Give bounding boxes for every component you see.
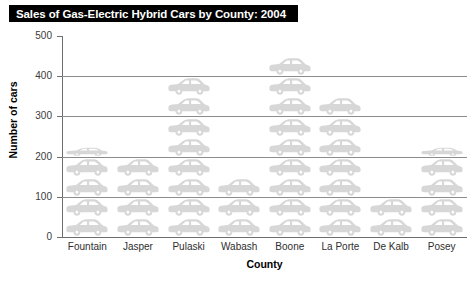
car-icon xyxy=(269,218,311,237)
car-icon-full xyxy=(265,217,316,237)
car-icon-full xyxy=(416,177,467,197)
car-icon-full xyxy=(163,76,214,96)
car-icon xyxy=(168,198,210,217)
pictogram-column xyxy=(113,36,164,237)
pictogram-column xyxy=(163,36,214,237)
pictogram-column xyxy=(265,36,316,237)
x-axis-line xyxy=(62,237,467,238)
car-icon xyxy=(66,198,108,217)
car-icon-partial xyxy=(416,147,467,157)
car-icon xyxy=(168,77,210,96)
car-icon xyxy=(421,218,463,237)
car-icon-full xyxy=(214,197,265,217)
car-icon-full xyxy=(265,96,316,116)
y-axis-tick-label: 100 xyxy=(12,191,52,202)
car-icon-full xyxy=(315,157,366,177)
car-icon-full xyxy=(62,177,113,197)
car-icon xyxy=(218,218,260,237)
car-icon-full xyxy=(265,197,316,217)
x-axis-tick-label-boone: Boone xyxy=(265,241,316,257)
car-icon xyxy=(218,198,260,217)
car-icon-full xyxy=(214,217,265,237)
car-icon xyxy=(168,118,210,137)
y-axis-tick-label: 0 xyxy=(12,231,52,242)
car-icon xyxy=(269,97,311,116)
pictogram-column xyxy=(366,36,417,237)
car-icon-full xyxy=(113,217,164,237)
car-icon-full xyxy=(62,217,113,237)
car-icon-full xyxy=(113,157,164,177)
car-icon xyxy=(319,198,361,217)
car-icon-full xyxy=(163,157,214,177)
car-icon xyxy=(370,198,412,217)
x-axis-tick-label-jasper: Jasper xyxy=(113,241,164,257)
car-icon-full xyxy=(163,137,214,157)
x-axis-title: County xyxy=(62,258,467,270)
car-icon-full xyxy=(315,137,366,157)
car-icon-full xyxy=(62,157,113,177)
car-icon xyxy=(269,77,311,96)
car-icon-partial xyxy=(62,147,113,157)
x-axis-tick-label-pulaski: Pulaski xyxy=(163,241,214,257)
car-icon-full xyxy=(315,217,366,237)
y-axis-tick-label: 500 xyxy=(12,30,52,41)
car-icon xyxy=(319,178,361,197)
x-axis-tick-label-fountain: Fountain xyxy=(62,241,113,257)
car-icon xyxy=(117,198,159,217)
x-axis-tick-label-la-porte: La Porte xyxy=(315,241,366,257)
car-icon-full xyxy=(163,217,214,237)
car-icon-full xyxy=(315,116,366,136)
car-icon xyxy=(66,158,108,177)
car-icon-full xyxy=(214,177,265,197)
car-icon xyxy=(269,118,311,137)
car-icon xyxy=(319,138,361,157)
car-icon-full xyxy=(62,197,113,217)
car-icon xyxy=(168,138,210,157)
car-icon xyxy=(168,178,210,197)
pictogram-column xyxy=(315,36,366,237)
car-icon xyxy=(319,218,361,237)
car-icon xyxy=(117,178,159,197)
pictogram-column xyxy=(62,36,113,237)
car-icon-full xyxy=(366,217,417,237)
page-title: Sales of Gas-Electric Hybrid Cars by Cou… xyxy=(16,8,286,20)
car-icon xyxy=(421,158,463,177)
car-icon xyxy=(319,118,361,137)
y-axis-tick-label: 300 xyxy=(12,110,52,121)
x-axis-tick-labels: FountainJasperPulaskiWabashBooneLa Porte… xyxy=(62,241,467,257)
car-icon-full xyxy=(163,116,214,136)
car-icon xyxy=(269,158,311,177)
car-icon xyxy=(168,218,210,237)
car-icon xyxy=(269,198,311,217)
car-icon xyxy=(269,178,311,197)
car-icon xyxy=(66,178,108,197)
car-icon xyxy=(168,158,210,177)
y-axis-tick-label: 400 xyxy=(12,70,52,81)
car-icon-full xyxy=(163,177,214,197)
pictogram-columns xyxy=(62,36,467,237)
pictogram-column xyxy=(214,36,265,237)
pictogram-column xyxy=(416,36,467,237)
car-icon xyxy=(370,218,412,237)
car-icon-full xyxy=(113,177,164,197)
y-axis-tick xyxy=(57,237,62,238)
car-icon-full xyxy=(163,197,214,217)
car-icon-full xyxy=(315,197,366,217)
y-axis-tick-label: 200 xyxy=(12,151,52,162)
pictograph-chart: Number of cars 0100200300400500 Fountain… xyxy=(0,22,472,290)
car-icon xyxy=(269,57,311,76)
car-icon xyxy=(168,97,210,116)
car-icon xyxy=(319,158,361,177)
car-icon-full xyxy=(265,56,316,76)
car-icon-full xyxy=(315,177,366,197)
car-icon xyxy=(269,138,311,157)
car-icon-full xyxy=(315,96,366,116)
x-axis-tick-label-posey: Posey xyxy=(416,241,467,257)
car-icon xyxy=(117,158,159,177)
car-icon-full xyxy=(416,157,467,177)
car-icon xyxy=(421,198,463,217)
car-icon-full xyxy=(113,197,164,217)
car-icon xyxy=(421,147,463,157)
car-icon xyxy=(421,178,463,197)
car-icon-full xyxy=(416,197,467,217)
